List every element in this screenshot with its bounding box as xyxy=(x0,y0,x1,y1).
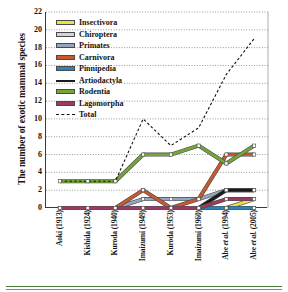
data-point-marker xyxy=(253,153,256,156)
y-tick-label: 18 xyxy=(22,44,42,52)
data-point-marker xyxy=(225,153,228,156)
legend-item-label: Insectivora xyxy=(79,18,117,27)
data-point-marker xyxy=(169,197,172,200)
data-point-marker xyxy=(225,162,228,165)
data-point-marker xyxy=(142,197,145,200)
legend-item: Chiroptera xyxy=(56,29,152,41)
x-axis-tick-labels: Aoki (1913)Kishida (1924)Kuroda (1940)Im… xyxy=(45,208,267,286)
data-point-marker xyxy=(114,180,117,183)
data-point-marker xyxy=(169,153,172,156)
chart-legend: InsectivoraChiropteraPrimatesCarnivoraPi… xyxy=(56,17,152,121)
legend-swatch-icon xyxy=(56,88,75,95)
legend-item-label: Artiodactyla xyxy=(79,76,122,85)
legend-swatch-icon xyxy=(56,77,75,84)
x-tick-label: Aoki (1913) xyxy=(54,210,63,246)
data-point-marker xyxy=(197,197,200,200)
y-tick-label: 12 xyxy=(22,97,42,105)
y-tick-label: 8 xyxy=(22,133,42,141)
y-tick-label: 10 xyxy=(22,115,42,123)
legend-swatch-icon xyxy=(56,19,75,26)
legend-swatch-icon xyxy=(56,111,75,118)
legend-swatch-icon xyxy=(56,42,75,49)
legend-item: Pinnipedia xyxy=(56,63,152,75)
data-point-marker xyxy=(253,189,256,192)
legend-item: Insectivora xyxy=(56,17,152,29)
legend-item: Primates xyxy=(56,40,152,52)
legend-swatch-icon xyxy=(56,31,75,38)
y-tick-label: 22 xyxy=(22,8,42,16)
data-point-marker xyxy=(58,180,61,183)
y-tick-label: 20 xyxy=(22,26,42,34)
legend-item: Lagomorpha xyxy=(56,98,152,110)
legend-item-label: Rodentia xyxy=(79,87,110,96)
data-point-marker xyxy=(225,189,228,192)
legend-item: Rodentia xyxy=(56,86,152,98)
x-tick-label-slot: Imaizumi (1949) xyxy=(135,208,149,282)
x-tick-label: Kishida (1924) xyxy=(82,210,91,255)
y-tick-label: 4 xyxy=(22,168,42,176)
y-tick-label: 6 xyxy=(22,151,42,159)
x-tick-label: Imaizumi (1949) xyxy=(138,210,147,261)
x-tick-label: Kuroda (1940) xyxy=(110,210,119,255)
data-point-marker xyxy=(142,153,145,156)
x-tick-label-slot: Imaizumi (1960) xyxy=(191,208,205,282)
data-point-marker xyxy=(225,197,228,200)
legend-swatch-icon xyxy=(56,100,75,107)
legend-item-label: Chiroptera xyxy=(79,30,117,39)
legend-item: Carnivora xyxy=(56,52,152,64)
x-tick-label: Kuroda (1953) xyxy=(165,210,174,255)
x-tick-label-slot: Kishida (1924) xyxy=(80,208,94,282)
legend-item: Total xyxy=(56,109,152,121)
x-tick-label: Abe et al. (2005) xyxy=(249,210,258,260)
y-axis-tick-labels: 2220181614121086420 xyxy=(22,8,42,210)
y-tick-label: 0 xyxy=(22,204,42,212)
x-tick-label-slot: Kuroda (1953) xyxy=(163,208,177,282)
data-point-marker xyxy=(197,144,200,147)
x-tick-label-slot: Abe et al. (1994) xyxy=(218,208,232,282)
y-tick-label: 2 xyxy=(22,186,42,194)
x-tick-label: Imaizumi (1960) xyxy=(193,210,202,261)
y-tick-label: 16 xyxy=(22,61,42,69)
data-point-marker xyxy=(253,144,256,147)
legend-item-label: Primates xyxy=(79,41,110,50)
legend-item-label: Pinnipedia xyxy=(79,64,116,73)
y-tick-label: 14 xyxy=(22,79,42,87)
x-tick-label-slot: Aoki (1913) xyxy=(52,208,66,282)
chart-figure: The number of exotic mammal species 2220… xyxy=(0,0,288,292)
legend-item: Artiodactyla xyxy=(56,75,152,87)
footer-rule-secondary xyxy=(6,289,282,290)
legend-swatch-icon xyxy=(56,65,75,72)
data-point-marker xyxy=(253,197,256,200)
legend-item-label: Carnivora xyxy=(79,53,115,62)
x-tick-label: Abe et al. (1994) xyxy=(221,210,230,260)
data-point-marker xyxy=(142,189,145,192)
legend-item-label: Lagomorpha xyxy=(79,99,123,108)
x-tick-label-slot: Abe et al. (2005) xyxy=(246,208,260,282)
x-tick-label-slot: Kuroda (1940) xyxy=(107,208,121,282)
legend-swatch-icon xyxy=(56,54,75,61)
data-point-marker xyxy=(86,180,89,183)
footer-rule xyxy=(6,286,282,287)
legend-item-label: Total xyxy=(79,110,97,119)
